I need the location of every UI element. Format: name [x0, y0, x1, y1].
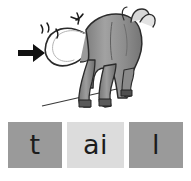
grapheme-letter-t: t — [29, 131, 40, 160]
grapheme-row: t ai l — [8, 122, 183, 168]
cow-rear-view-with-swishing-tail — [0, 0, 191, 120]
grapheme-box-l[interactable]: l — [129, 122, 183, 168]
pointer-arrow — [18, 44, 45, 62]
grapheme-box-t[interactable]: t — [8, 122, 62, 168]
grapheme-letter-l: l — [152, 131, 160, 160]
grapheme-box-ai[interactable]: ai — [67, 122, 124, 168]
cow-body — [85, 14, 142, 98]
phonics-card: t ai l — [0, 0, 191, 181]
grapheme-letter-ai: ai — [83, 131, 108, 160]
